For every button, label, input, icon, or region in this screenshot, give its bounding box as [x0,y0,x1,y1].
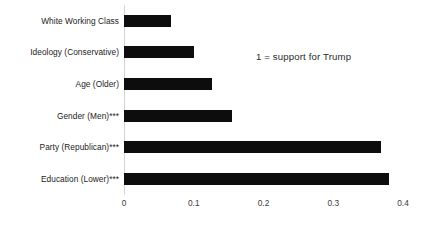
bar [124,46,194,58]
bar-row: Party (Republican)*** [124,132,403,164]
bar-category-label: Age (Older) [76,79,119,89]
bar-row: Gender (Men)*** [124,100,403,132]
bar-category-label: White Working Class [41,16,119,26]
bar [124,141,381,153]
x-axis: 00.10.20.30.4 [124,198,403,214]
bar [124,173,389,185]
bar-chart: White Working ClassIdeology (Conservativ… [0,0,426,229]
bar [124,15,171,27]
bar-category-label: Education (Lower)*** [41,174,119,184]
bar-row: Education (Lower)*** [124,163,403,195]
x-tick-label: 0.3 [327,198,339,208]
bar [124,110,232,122]
x-tick-label: 0.1 [188,198,200,208]
bar-category-label: Party (Republican)*** [40,142,119,152]
plot-area: White Working ClassIdeology (Conservativ… [124,5,403,195]
chart-annotation: 1 = support for Trump [256,51,351,62]
bar-row: White Working Class [124,5,403,37]
bar-row: Age (Older) [124,68,403,100]
x-tick-label: 0.4 [397,198,409,208]
bar-category-label: Ideology (Conservative) [30,47,119,57]
x-tick-label: 0.2 [258,198,270,208]
x-tick-label: 0 [122,198,127,208]
bar-category-label: Gender (Men)*** [57,111,119,121]
bar [124,78,212,90]
